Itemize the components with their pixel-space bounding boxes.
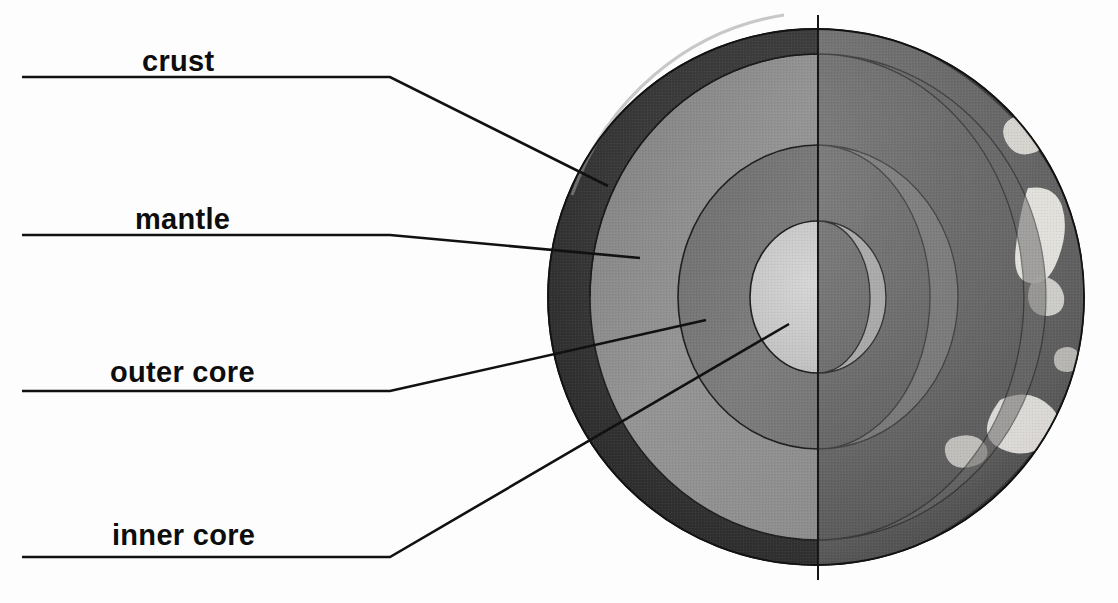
earth-interior-diagram: crust mantle outer core inner core (0, 0, 1118, 603)
label-inner-core: inner core (112, 521, 255, 550)
label-mantle: mantle (135, 205, 230, 234)
label-crust: crust (142, 47, 214, 76)
label-outer-core: outer core (110, 358, 255, 387)
leader-line-crust (22, 77, 608, 186)
diagram-canvas (0, 0, 1118, 603)
leader-line-mantle (22, 235, 640, 258)
globe-graphic (370, 12, 1086, 582)
halftone-overlay (548, 29, 1084, 565)
